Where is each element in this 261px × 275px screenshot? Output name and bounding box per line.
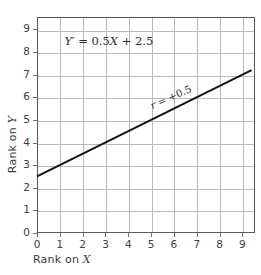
x-axis-label-text: Rank on: [33, 253, 83, 266]
y-axis-tick-label: 1: [10, 203, 30, 216]
scatterplot-figure: Y′ = 0.5X + 2.5 r = +0.5 012345678901234…: [0, 0, 261, 275]
gridline-vertical: [174, 18, 175, 232]
gridline-horizontal: [38, 76, 254, 77]
gridline-horizontal: [38, 53, 254, 54]
x-axis-tick: [37, 233, 38, 237]
x-axis-tick: [174, 233, 175, 237]
plot-area: [37, 17, 255, 233]
y-axis-tick: [33, 52, 37, 53]
gridline-vertical: [197, 18, 198, 232]
x-axis-tick-label: 8: [210, 238, 230, 250]
x-axis-tick-label: 6: [164, 238, 184, 250]
y-axis-tick-label: 9: [10, 22, 30, 35]
x-axis-tick-label: 4: [118, 238, 138, 250]
equation-intercept: 2.5: [135, 34, 153, 48]
y-axis-tick: [33, 143, 37, 144]
gridline-vertical: [129, 18, 130, 232]
gridline-horizontal: [38, 31, 254, 32]
gridline-vertical: [60, 18, 61, 232]
y-axis-tick: [33, 165, 37, 166]
x-axis-tick: [151, 233, 152, 237]
x-axis-tick-label: 3: [95, 238, 115, 250]
gridline-horizontal: [38, 144, 254, 145]
equation-annotation: Y′ = 0.5X + 2.5: [64, 34, 153, 48]
gridline-horizontal: [38, 166, 254, 167]
gridline-horizontal: [38, 121, 254, 122]
gridline-horizontal: [38, 211, 254, 212]
y-axis-tick: [33, 210, 37, 211]
x-axis-tick: [242, 233, 243, 237]
y-axis-tick-label: 0: [10, 226, 30, 239]
y-axis-tick-label: 6: [10, 90, 30, 103]
x-axis-tick-label: 2: [73, 238, 93, 250]
gridline-horizontal: [38, 189, 254, 190]
y-axis-tick: [33, 97, 37, 98]
x-axis-tick: [220, 233, 221, 237]
gridline-vertical: [152, 18, 153, 232]
x-axis-tick-label: 0: [27, 238, 47, 250]
y-axis-tick: [33, 75, 37, 76]
equation-variable: X: [110, 34, 118, 48]
equation-equals: =: [75, 34, 92, 48]
x-axis-tick: [83, 233, 84, 237]
y-axis-tick-label: 7: [10, 68, 30, 81]
x-axis-tick: [105, 233, 106, 237]
y-axis-tick: [33, 29, 37, 30]
x-axis-label: Rank on X: [33, 253, 91, 266]
x-axis-tick-label: 7: [187, 238, 207, 250]
x-axis-tick-label: 9: [232, 238, 252, 250]
x-axis-tick-label: 1: [50, 238, 70, 250]
x-axis-tick: [197, 233, 198, 237]
x-axis-tick: [60, 233, 61, 237]
gridline-vertical: [243, 18, 244, 232]
y-axis-tick: [33, 233, 37, 234]
equation-lhs: Y′: [64, 34, 74, 48]
y-axis-tick-label: 8: [10, 45, 30, 58]
equation-plus: +: [118, 34, 135, 48]
gridline-horizontal: [38, 98, 254, 99]
y-axis-label-variable: Y: [6, 116, 19, 123]
y-axis-label: Rank on Y: [6, 105, 19, 185]
gridline-vertical: [106, 18, 107, 232]
x-axis-tick: [128, 233, 129, 237]
gridline-vertical: [83, 18, 84, 232]
y-axis-tick: [33, 120, 37, 121]
x-axis-tick-label: 5: [141, 238, 161, 250]
equation-slope: 0.5: [92, 34, 110, 48]
gridline-vertical: [220, 18, 221, 232]
x-axis-label-variable: X: [83, 253, 91, 266]
y-axis-tick: [33, 188, 37, 189]
y-axis-label-text: Rank on: [6, 123, 19, 173]
